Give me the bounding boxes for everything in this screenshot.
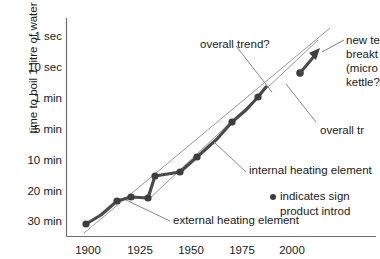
annotation-new-technology-line2: breakt bbox=[346, 47, 380, 61]
data-point[interactable] bbox=[176, 168, 183, 175]
legend-marker-icon bbox=[270, 194, 276, 200]
annotation-overall-trend-question: overall trend? bbox=[200, 38, 270, 52]
data-point[interactable] bbox=[193, 153, 200, 160]
legend-label-line2: product introd bbox=[270, 204, 350, 219]
data-point[interactable] bbox=[228, 118, 235, 125]
leader-line-internal-heating bbox=[214, 142, 246, 172]
leader-line-new-technology bbox=[322, 40, 344, 52]
data-point[interactable] bbox=[151, 172, 158, 179]
chart-legend: indicates sign product introd bbox=[270, 189, 350, 218]
leader-line-overall-trend-right bbox=[286, 84, 316, 122]
leader-line-overall-trend-q bbox=[236, 46, 272, 92]
data-point[interactable] bbox=[144, 194, 151, 201]
annotation-overall-trend-right: overall tr bbox=[320, 124, 364, 138]
annotation-new-technology: new te breakt (micro kettle? bbox=[346, 33, 380, 89]
leader-line-external-heating bbox=[126, 200, 170, 221]
annotation-new-technology-line4: kettle? bbox=[346, 75, 380, 89]
data-line bbox=[86, 87, 266, 224]
annotation-new-technology-line3: (micro bbox=[346, 61, 380, 75]
legend-label-line1: indicates sign bbox=[280, 190, 350, 202]
data-point[interactable] bbox=[254, 93, 261, 100]
annotation-new-technology-line1: new te bbox=[346, 33, 380, 47]
data-point[interactable] bbox=[113, 197, 120, 204]
data-point[interactable] bbox=[82, 220, 89, 227]
data-point[interactable] bbox=[127, 193, 134, 200]
annotation-internal-heating-element: internal heating element bbox=[249, 164, 372, 178]
